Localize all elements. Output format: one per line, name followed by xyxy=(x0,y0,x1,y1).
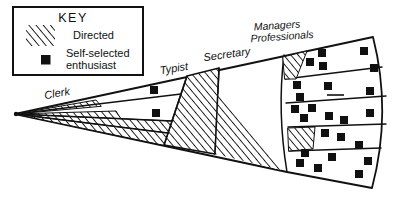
key-label-enthusiast: enthusiast xyxy=(66,59,116,71)
enthusiast-square-managers_band4 xyxy=(321,129,329,137)
enthusiast-square-managers_band4 xyxy=(337,133,345,141)
enthusiast-square-managers_band3 xyxy=(325,112,333,120)
fan-diagram: Clerk Typist Secretary Managers Professi… xyxy=(0,0,393,202)
key-box: KEY Directed Self-selected enthusiast xyxy=(13,7,143,75)
enthusiast-square-managers_band1 xyxy=(360,47,368,55)
label-clerk: Clerk xyxy=(43,85,71,101)
key-title: KEY xyxy=(58,11,88,25)
enthusiast-square-managers_band2 xyxy=(324,82,332,90)
enthusiast-square-managers_band2 xyxy=(296,93,304,101)
enthusiast-square-managers_band4 xyxy=(355,141,363,149)
key-hatch-swatch xyxy=(26,25,55,46)
enthusiast-square-clerk xyxy=(150,86,158,94)
enthusiast-square-managers_band5 xyxy=(296,159,304,167)
enthusiast-square-clerk xyxy=(152,109,160,117)
enthusiast-square-managers_band3 xyxy=(340,116,348,124)
enthusiast-square-managers_band3 xyxy=(291,105,299,113)
enthusiast-square-managers_band3 xyxy=(366,109,374,117)
enthusiast-square-managers_band1 xyxy=(318,49,326,57)
label-secretary: Secretary xyxy=(203,45,253,64)
label-typist: Typist xyxy=(159,60,190,76)
key-square-swatch xyxy=(41,55,51,65)
figure-canvas: Clerk Typist Secretary Managers Professi… xyxy=(0,0,393,202)
enthusiast-square-managers_band5 xyxy=(314,164,322,172)
enthusiast-square-managers_band5 xyxy=(364,157,372,165)
enthusiast-square-managers_band5 xyxy=(355,170,363,178)
enthusiast-square-managers_band1 xyxy=(370,64,378,72)
key-label-self-selected: Self-selected xyxy=(66,47,130,59)
enthusiast-square-managers_band5 xyxy=(328,153,336,161)
managers-band4-hatch xyxy=(288,127,315,151)
enthusiast-square-managers_band5 xyxy=(301,149,309,157)
fan-apex xyxy=(14,112,18,116)
key-label-directed: Directed xyxy=(73,29,114,41)
enthusiast-square-managers_band1 xyxy=(319,62,327,70)
enthusiast-square-managers_band1 xyxy=(306,58,314,66)
enthusiast-square-managers_band3 xyxy=(308,104,316,112)
enthusiast-square-managers_band2 xyxy=(293,81,301,89)
enthusiast-square-managers_band3 xyxy=(300,114,308,122)
enthusiast-square-managers_band2 xyxy=(366,87,374,95)
